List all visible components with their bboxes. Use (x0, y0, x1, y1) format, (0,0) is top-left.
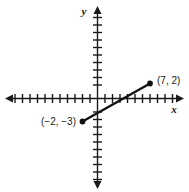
x-axis-label: x (170, 103, 177, 115)
y-axis-label: y (80, 5, 87, 17)
y-axis-arrow-down-icon (94, 181, 102, 189)
coordinate-plane-svg: y x (7, 2) (−2, −3) (0, 0, 189, 192)
x-axis-arrow-right-icon (176, 95, 184, 103)
x-axis-arrow-left-icon (5, 95, 13, 103)
line-segment (83, 84, 151, 122)
graph-figure: y x (7, 2) (−2, −3) (0, 0, 189, 192)
endpoint-dot-left (80, 119, 86, 125)
endpoint-dot-right (147, 81, 153, 87)
point-label-right: (7, 2) (157, 75, 180, 86)
y-axis-arrow-up-icon (94, 6, 102, 14)
point-label-left: (−2, −3) (41, 116, 76, 127)
